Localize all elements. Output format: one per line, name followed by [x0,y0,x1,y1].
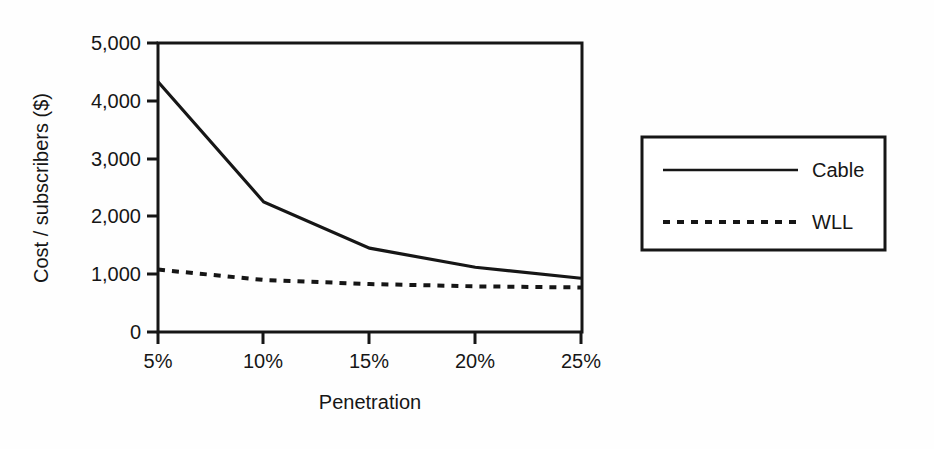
y-axis-title: Cost / subscribers ($) [30,93,52,283]
x-tick-label-25: 25% [561,350,601,372]
chart-legend: Cable WLL [642,137,885,250]
x-tick-label-20: 20% [455,350,495,372]
plot-frame-rect [158,43,582,332]
x-tick-label-15: 15% [349,350,389,372]
x-tick-label-10: 10% [243,350,283,372]
x-axis-title: Penetration [319,391,421,413]
legend-label-wll: WLL [812,211,853,233]
legend-box [642,137,885,250]
plot-frame [158,43,582,332]
y-tick-label-5000: 5,000 [91,32,141,54]
chart-figure: 5,000 4,000 3,000 2,000 1,000 0 Cost / s… [0,0,934,449]
y-tick-label-2000: 2,000 [91,205,141,227]
y-tick-label-4000: 4,000 [91,90,141,112]
x-axis-tick-labels: 5% 10% 15% 20% 25% [144,350,602,372]
y-axis-ticks [147,43,158,332]
x-axis-ticks [158,332,581,344]
y-tick-label-1000: 1,000 [91,263,141,285]
series-line-cable [158,82,581,279]
line-chart: 5,000 4,000 3,000 2,000 1,000 0 Cost / s… [0,0,934,449]
y-axis-tick-labels: 5,000 4,000 3,000 2,000 1,000 0 [91,32,141,343]
legend-label-cable: Cable [812,159,864,181]
y-tick-label-0: 0 [130,321,141,343]
y-tick-label-3000: 3,000 [91,148,141,170]
x-tick-label-5: 5% [144,350,173,372]
